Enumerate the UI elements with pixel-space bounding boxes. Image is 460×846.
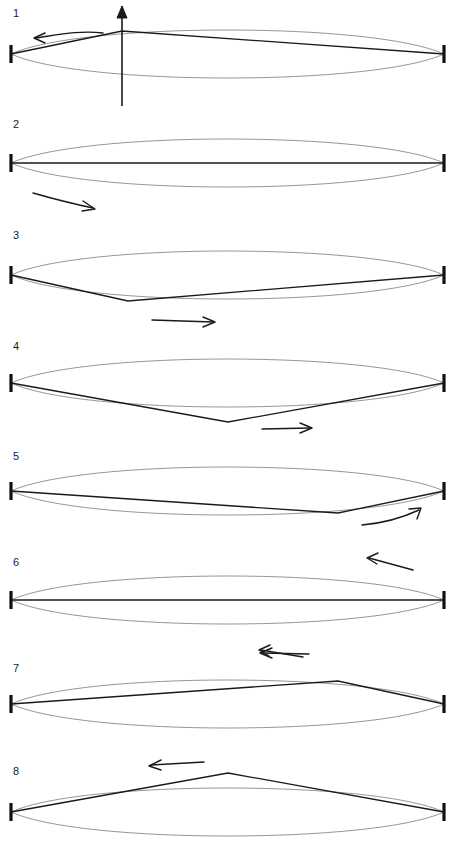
panel-number-label: 3 [13, 229, 19, 241]
pulse-direction-arrow-left [262, 653, 309, 654]
panel-number-label: 4 [13, 340, 19, 352]
pulse-direction-arrow-right [262, 428, 310, 429]
vibrating-string-figure: 12345678 [0, 0, 460, 846]
figure-background [0, 0, 460, 846]
panel-number-label: 1 [13, 7, 19, 19]
panel-number-label: 8 [13, 765, 19, 777]
panel-number-label: 7 [13, 662, 19, 674]
panel-number-label: 6 [13, 556, 19, 568]
panel-number-label: 2 [13, 118, 19, 130]
panel-number-label: 5 [13, 450, 19, 462]
